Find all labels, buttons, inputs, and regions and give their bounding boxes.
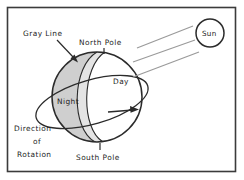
day-night-diagram: Gray Line North Pole Day Night South Pol…: [0, 0, 244, 180]
label-direction-line-1: Direction: [14, 124, 51, 133]
label-direction-line-2: of: [33, 137, 41, 146]
label-sun: Sun: [202, 29, 217, 38]
label-day: Day: [113, 77, 129, 86]
label-night: Night: [57, 97, 79, 106]
label-gray-line: Gray Line: [23, 29, 62, 38]
label-direction-line-3: Rotation: [17, 150, 52, 159]
diagram-canvas: Gray Line North Pole Day Night South Pol…: [0, 0, 244, 180]
label-south-pole: South Pole: [76, 153, 120, 162]
label-north-pole: North Pole: [79, 38, 122, 47]
